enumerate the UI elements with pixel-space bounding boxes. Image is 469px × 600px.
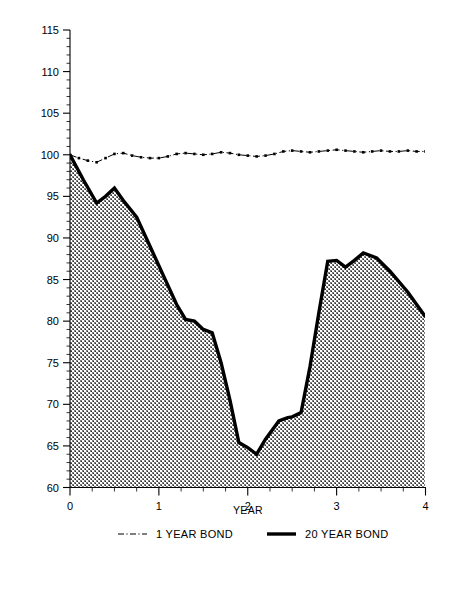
series-marker-point	[95, 161, 98, 164]
series-marker-point	[86, 159, 89, 162]
x-tick-label: 1	[156, 500, 162, 512]
series-marker-point	[362, 151, 365, 154]
y-tick-label: 105	[41, 107, 59, 119]
y-tick-label: 95	[47, 190, 59, 202]
y-tick-label: 100	[41, 149, 59, 161]
series-marker-point	[122, 152, 125, 155]
series-marker-point	[309, 151, 312, 154]
y-tick-label: 80	[47, 315, 59, 327]
series-marker-point	[389, 150, 392, 153]
series-marker-point	[246, 154, 249, 157]
series-marker-point	[335, 148, 338, 151]
legend-label-1-year-bond: 1 YEAR BOND	[156, 528, 233, 540]
series-marker-point	[255, 155, 258, 158]
x-tick-label: 3	[334, 500, 340, 512]
series-marker-point	[193, 153, 196, 156]
legend-label-20-year-bond: 20 YEAR BOND	[305, 528, 388, 540]
y-tick-label: 70	[47, 398, 59, 410]
series-marker-point	[158, 157, 161, 160]
y-tick-label: 65	[47, 440, 59, 452]
x-axis-title: YEAR	[233, 504, 263, 516]
series-marker-point	[264, 154, 267, 157]
series-marker-point	[344, 149, 347, 152]
series-marker-point	[220, 151, 223, 154]
series-marker-point	[175, 153, 178, 156]
x-tick-label: 0	[67, 500, 73, 512]
y-tick-label: 115	[41, 24, 59, 36]
series-marker-point	[149, 157, 152, 160]
x-tick-label: 4	[422, 500, 428, 512]
series-marker-point	[184, 152, 187, 155]
series-marker-point	[371, 150, 374, 153]
chart-figure: 6065707580859095100105110115 01234 YEAR …	[0, 0, 469, 600]
series-marker-point	[406, 149, 409, 152]
series-marker-point	[238, 153, 241, 156]
series-marker-point	[282, 150, 285, 153]
series-marker-point	[398, 150, 401, 153]
series-marker-point	[318, 150, 321, 153]
series-marker-point	[415, 150, 418, 153]
series-marker-point	[104, 157, 107, 160]
series-marker-point	[291, 149, 294, 152]
y-tick-label: 85	[47, 274, 59, 286]
y-tick-label: 90	[47, 232, 59, 244]
series-marker-point	[326, 149, 329, 152]
series-marker-point	[202, 153, 205, 156]
y-tick-label: 60	[47, 482, 59, 494]
series-marker-point	[131, 154, 134, 157]
series-marker-point	[78, 157, 81, 160]
y-tick-label: 75	[47, 357, 59, 369]
series-marker-point	[166, 155, 169, 158]
series-marker-point	[353, 150, 356, 153]
series-marker-point	[140, 156, 143, 159]
series-marker-point	[273, 153, 276, 156]
series-marker-point	[300, 150, 303, 153]
series-marker-point	[211, 153, 214, 156]
series-marker-point	[113, 153, 116, 156]
series-marker-point	[380, 149, 383, 152]
series-marker-point	[229, 152, 232, 155]
bond-price-area-chart: 6065707580859095100105110115 01234 YEAR …	[0, 0, 469, 600]
y-tick-label: 110	[41, 66, 59, 78]
